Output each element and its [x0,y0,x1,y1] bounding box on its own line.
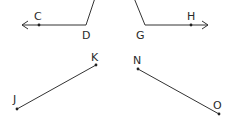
angle-g-figure: H G [134,0,208,42]
point-h [190,24,193,27]
label-g: G [136,29,145,42]
geometry-diagram: C D H G J K N O [0,0,234,127]
segment-no [138,69,219,114]
point-n [137,68,140,71]
segment-d-up [86,0,95,25]
point-o [218,113,221,116]
segment-no-figure: N O [133,54,222,115]
segment-g-up [134,0,145,25]
label-h: H [187,10,195,23]
label-n: N [133,54,141,67]
point-c [38,24,41,27]
point-j [16,108,19,111]
point-k [95,64,98,67]
label-d: D [82,29,90,42]
label-o: O [213,99,222,112]
label-j: J [12,93,16,106]
angle-d-figure: C D [22,0,95,42]
label-c: C [34,10,42,23]
segment-jk [17,65,96,109]
label-k: K [91,51,99,64]
segment-jk-figure: J K [12,51,99,110]
